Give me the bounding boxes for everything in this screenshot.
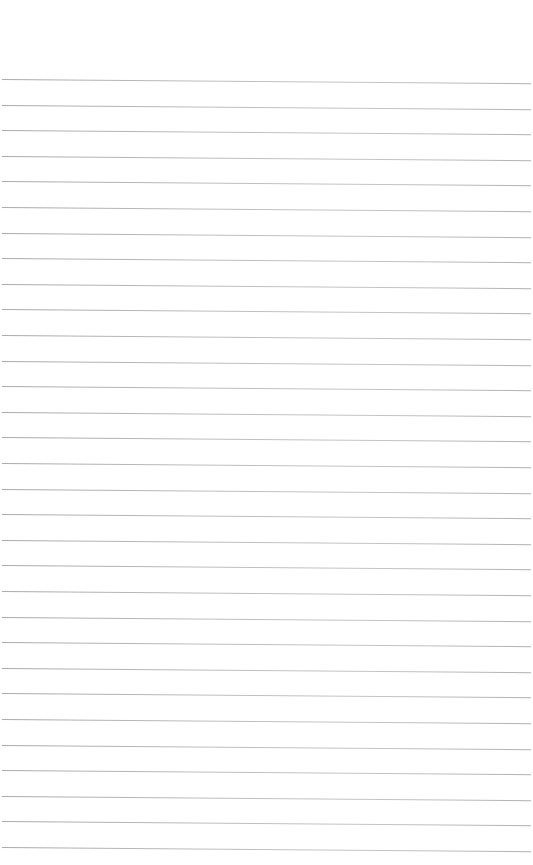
ruled-line [2,540,531,545]
ruled-line [2,719,531,724]
ruled-line [2,770,531,775]
ruled-line [2,463,531,468]
ruled-line [2,617,531,622]
ruled-line [2,233,531,238]
ruled-line [2,693,531,698]
ruled-line [2,642,531,647]
ruled-line [2,796,531,801]
ruled-line [2,565,531,570]
ruled-line [2,79,531,84]
ruled-line [2,386,531,391]
ruled-line [2,130,531,135]
ruled-line [2,437,531,442]
ruled-line [2,489,531,494]
ruled-line [2,156,531,161]
ruled-line [2,258,531,263]
ruled-line [2,284,531,289]
ruled-line [2,668,531,673]
ruled-line [2,745,531,750]
ruled-line [2,335,531,340]
lined-paper-page [0,0,533,865]
ruled-line [2,591,531,596]
ruled-line [2,181,531,186]
ruled-line [2,309,531,314]
ruled-line [2,847,531,852]
ruled-line [2,821,531,826]
ruled-line [2,514,531,519]
ruled-line [2,361,531,366]
ruled-line [2,412,531,417]
ruled-line [2,207,531,212]
ruled-line [2,105,531,110]
